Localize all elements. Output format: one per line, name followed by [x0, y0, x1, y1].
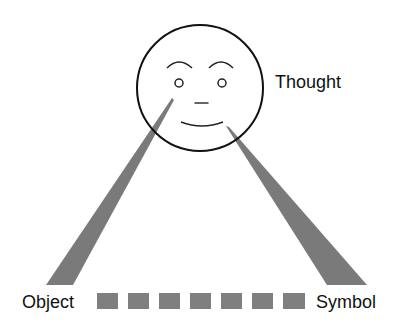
object-symbol-link: [97, 293, 305, 309]
thought-symbol-beam: [226, 126, 367, 285]
object-label: Object: [22, 293, 74, 311]
link-block: [97, 293, 118, 309]
link-block: [283, 293, 305, 309]
right-eye-icon: [218, 79, 226, 87]
mouth-icon: [181, 122, 223, 126]
link-block: [221, 293, 242, 309]
left-eye-icon: [175, 79, 183, 87]
triangle-of-meaning-diagram: [0, 0, 408, 331]
thought-object-beam: [46, 98, 174, 285]
right-eyebrow-icon: [209, 62, 233, 68]
head-circle: [137, 25, 263, 151]
link-block: [159, 293, 180, 309]
link-block: [252, 293, 273, 309]
link-block: [190, 293, 211, 309]
thought-face: [137, 25, 263, 151]
link-block: [128, 293, 149, 309]
symbol-label: Symbol: [316, 293, 376, 311]
left-eyebrow-icon: [167, 62, 192, 68]
thought-label: Thought: [275, 73, 341, 91]
